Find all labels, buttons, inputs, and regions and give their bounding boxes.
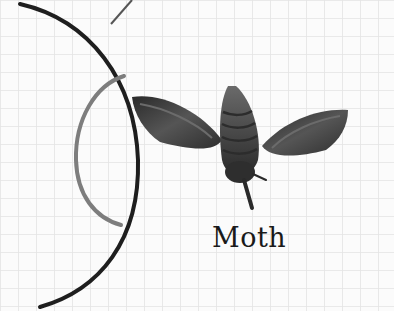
graph-paper-grid	[0, 0, 394, 311]
diagram-drawing	[0, 0, 394, 311]
diagram-canvas: Moth	[0, 0, 394, 311]
moth-label: Moth	[212, 222, 286, 253]
